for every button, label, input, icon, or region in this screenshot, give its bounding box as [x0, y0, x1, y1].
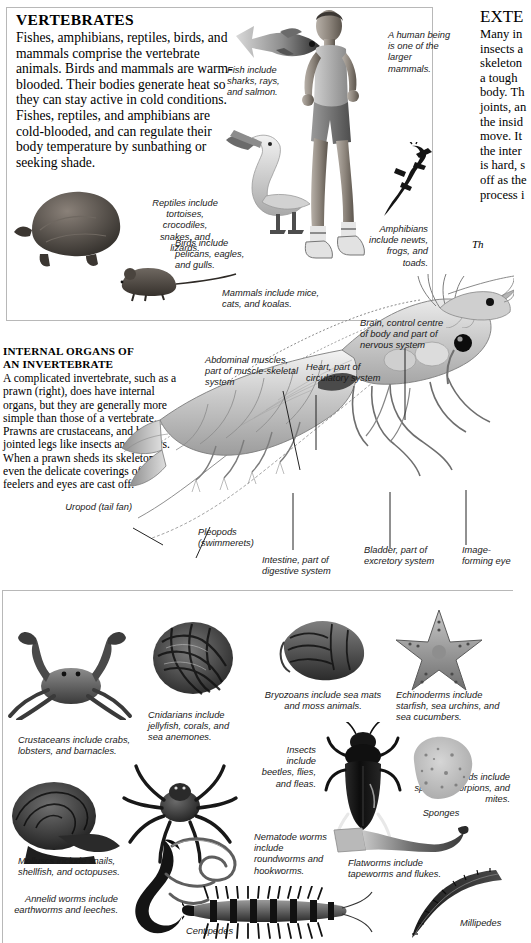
label-heart: Heart, part of circulatory system: [306, 362, 386, 384]
label-abdominal-muscles: Abdominal muscles, part of muscle-skelet…: [205, 355, 303, 389]
caption-bryozoans: Bryozoans include sea mats and moss anim…: [264, 690, 382, 712]
label-pleopods: Pleopods (swimmerets): [198, 527, 260, 549]
bryozoan-illustration: [276, 608, 372, 694]
crab-illustration: [6, 612, 136, 720]
label-eye: Image-forming eye: [462, 545, 516, 567]
sponge-illustration: [404, 733, 478, 805]
caption-insects: Insects include beetles, flies, and flea…: [258, 745, 316, 790]
label-uropod: Uropod (tail fan): [62, 502, 132, 513]
caption-millipedes: Millipedes: [460, 918, 520, 929]
caption-annelids: Annelid worms include earthworms and lee…: [10, 894, 118, 916]
caption-sponges: Sponges: [400, 808, 482, 819]
caption-cnidarians: Cnidarians include jellyfish, corals, an…: [148, 710, 240, 744]
starfish-illustration: [392, 606, 486, 694]
caption-echinoderms: Echinoderms include starfish, sea urchin…: [396, 690, 508, 724]
small-crustacean-illustration: [406, 262, 514, 328]
caption-nematodes: Nematode worms include roundworms and ho…: [254, 832, 330, 877]
snail-illustration: [2, 776, 122, 866]
coral-illustration: [148, 612, 238, 700]
caption-molluscs: Molluscs include snails, shellfish, and …: [18, 856, 130, 878]
caption-crustaceans: Crustaceans include crabs, lobsters, and…: [18, 735, 136, 757]
label-intestine: Intestine, part of digestive system: [262, 555, 344, 577]
caption-centipedes: Centipedes: [186, 926, 256, 937]
label-bladder: Bladder, part of excretory system: [364, 545, 444, 567]
beetle-illustration: [320, 722, 406, 840]
